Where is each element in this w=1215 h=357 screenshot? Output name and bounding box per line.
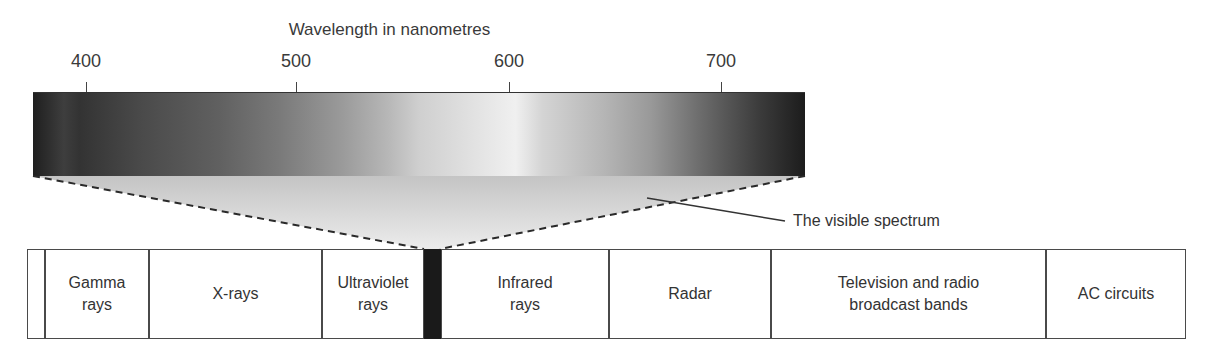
- band-ultraviolet-rays: Ultravioletrays: [322, 249, 424, 339]
- band-tv-line1: Television and radio: [838, 274, 979, 291]
- band-uv-line2: rays: [358, 296, 388, 313]
- band-ac-circuits: AC circuits: [1046, 249, 1186, 339]
- band-gamma-line1: Gamma: [69, 274, 126, 291]
- callout-visible-spectrum: The visible spectrum: [793, 212, 940, 230]
- band-tv-line2: broadcast bands: [849, 296, 967, 313]
- band-radar-label: Radar: [668, 283, 712, 305]
- funnel-fill: [33, 176, 805, 249]
- band-x-rays: X-rays: [149, 249, 322, 339]
- band-gamma-rays: Gammarays: [45, 249, 149, 339]
- band-infrared-rays: Infraredrays: [441, 249, 609, 339]
- band-uv-line1: Ultraviolet: [337, 274, 408, 291]
- band-blank: [27, 249, 45, 339]
- band-infrared-line2: rays: [510, 296, 540, 313]
- band-xrays-label: X-rays: [212, 283, 258, 305]
- callout-leader-line: [647, 198, 785, 221]
- band-visible-light: [424, 249, 441, 339]
- band-tv-radio: Television and radiobroadcast bands: [771, 249, 1046, 339]
- band-gamma-line2: rays: [82, 296, 112, 313]
- em-spectrum-bands: Gammarays X-rays Ultravioletrays Infrare…: [27, 249, 1186, 339]
- band-infrared-line1: Infrared: [497, 274, 552, 291]
- band-radar: Radar: [609, 249, 771, 339]
- band-ac-label: AC circuits: [1078, 283, 1154, 305]
